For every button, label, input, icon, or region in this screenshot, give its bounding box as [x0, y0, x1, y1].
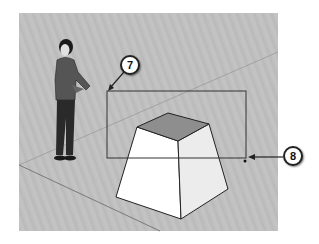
frustum-model[interactable] — [116, 113, 228, 219]
callout-7: 7 — [120, 55, 140, 75]
scale-figure[interactable] — [54, 39, 90, 161]
frustum-front-face — [116, 127, 181, 219]
callout-7-number: 7 — [127, 59, 133, 71]
arrowhead-8 — [248, 154, 255, 160]
frustum-side-face — [178, 124, 228, 219]
callout-8-number: 8 — [290, 150, 296, 162]
callout-8: 8 — [283, 146, 303, 166]
cursor-point — [244, 160, 247, 163]
scene-canvas[interactable] — [0, 0, 319, 244]
callout-7-arrow — [110, 72, 124, 88]
